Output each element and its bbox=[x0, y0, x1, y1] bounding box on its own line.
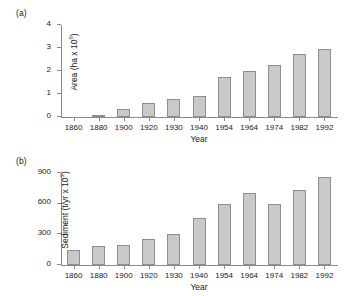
panel-b-x-tick-label-1920: 1920 bbox=[140, 271, 158, 280]
panel-b-x-tick-label-1860: 1860 bbox=[65, 271, 83, 280]
panel-b-y-tick-label: 0 bbox=[47, 259, 51, 269]
bar bbox=[243, 71, 256, 117]
panel-a-y-axis-title: Area (ha x 106) bbox=[69, 2, 79, 122]
panel-b-y-tick: 600 bbox=[57, 203, 61, 204]
panel-b-x-tick bbox=[124, 265, 125, 269]
panel-a-y-tick: 4 bbox=[57, 24, 61, 25]
panel-a-y-tick: 2 bbox=[57, 70, 61, 71]
panel-b-x-tick-label-1900: 1900 bbox=[115, 271, 133, 280]
panel-b-x-tick bbox=[199, 265, 200, 269]
bar bbox=[293, 190, 306, 265]
panel-b-x-tick bbox=[249, 265, 250, 269]
panel-a-x-tick bbox=[149, 117, 150, 121]
panel-a-x-tick bbox=[274, 117, 275, 121]
bar bbox=[218, 77, 231, 117]
panel-b-x-tick-label-1964: 1964 bbox=[240, 271, 258, 280]
panel-b-label: (b) bbox=[16, 156, 27, 166]
bar bbox=[142, 239, 155, 265]
panel-b-y-tick-label: 300 bbox=[38, 228, 51, 238]
panel-b-y-tick: 300 bbox=[57, 233, 61, 234]
bar bbox=[193, 96, 206, 117]
panel-b-x-tick-label-1880: 1880 bbox=[90, 271, 108, 280]
bar bbox=[268, 65, 281, 117]
panel-a-plot-area: Area (ha x 106) Year 0123418601880190019… bbox=[61, 25, 337, 117]
panel-a-x-tick bbox=[324, 117, 325, 121]
panel-a-y-tick: 1 bbox=[57, 93, 61, 94]
bar bbox=[142, 103, 155, 117]
panel-a-x-tick bbox=[249, 117, 250, 121]
panel-b-plot-area: Sediment (t/yr x 103) Year 0300600900186… bbox=[61, 173, 337, 265]
panel-a: (a) Area (ha x 106) Year 012341860188019… bbox=[0, 0, 347, 148]
panel-a-x-tick-label-1954: 1954 bbox=[215, 123, 233, 132]
panel-b-x-tick-label-1940: 1940 bbox=[190, 271, 208, 280]
panel-b-x-tick bbox=[299, 265, 300, 269]
panel-b-x-tick-label-1974: 1974 bbox=[265, 271, 283, 280]
bar bbox=[318, 177, 331, 265]
panel-a-x-tick bbox=[99, 117, 100, 121]
panel-a-y-tick: 3 bbox=[57, 47, 61, 48]
bar bbox=[293, 54, 306, 117]
panel-b-x-tick bbox=[224, 265, 225, 269]
panel-a-x-tick-label-1964: 1964 bbox=[240, 123, 258, 132]
panel-b: (b) Sediment (t/yr x 103) Year 030060090… bbox=[0, 148, 347, 296]
panel-a-x-tick-label-1974: 1974 bbox=[265, 123, 283, 132]
panel-a-x-tick-label-1900: 1900 bbox=[115, 123, 133, 132]
panel-b-x-tick bbox=[74, 265, 75, 269]
panel-b-x-tick-label-1992: 1992 bbox=[316, 271, 334, 280]
panel-a-x-tick-label-1992: 1992 bbox=[316, 123, 334, 132]
panel-b-x-axis-title: Year bbox=[61, 282, 337, 292]
panel-b-x-tick-label-1954: 1954 bbox=[215, 271, 233, 280]
panel-a-y-tick-label: 2 bbox=[47, 65, 51, 75]
panel-b-x-tick-label-1930: 1930 bbox=[165, 271, 183, 280]
bar bbox=[268, 204, 281, 265]
panel-b-x-tick-label-1982: 1982 bbox=[290, 271, 308, 280]
bar bbox=[117, 109, 130, 117]
panel-b-x-tick bbox=[274, 265, 275, 269]
panel-a-x-tick bbox=[224, 117, 225, 121]
panel-a-y-tick-label: 3 bbox=[47, 42, 51, 52]
panel-b-y-tick: 900 bbox=[57, 172, 61, 173]
panel-a-y-tick-label: 4 bbox=[47, 19, 51, 29]
bar bbox=[67, 250, 80, 265]
panel-a-y-tick-label: 1 bbox=[47, 88, 51, 98]
bar bbox=[318, 49, 331, 117]
panel-a-x-tick bbox=[299, 117, 300, 121]
bar bbox=[167, 99, 180, 117]
bar bbox=[92, 246, 105, 265]
panel-b-x-tick bbox=[149, 265, 150, 269]
figure-two-panel-bar-charts: (a) Area (ha x 106) Year 012341860188019… bbox=[0, 0, 347, 296]
bar bbox=[92, 115, 105, 117]
bar bbox=[193, 218, 206, 265]
panel-b-y-tick-label: 900 bbox=[38, 167, 51, 177]
panel-a-x-tick-label-1930: 1930 bbox=[165, 123, 183, 132]
bar bbox=[117, 245, 130, 265]
panel-a-x-tick-label-1860: 1860 bbox=[65, 123, 83, 132]
panel-b-y-tick-label: 600 bbox=[38, 197, 51, 207]
bar bbox=[218, 204, 231, 265]
panel-a-x-axis-title: Year bbox=[61, 134, 337, 144]
panel-a-x-tick-label-1940: 1940 bbox=[190, 123, 208, 132]
panel-a-label: (a) bbox=[16, 8, 27, 18]
panel-a-x-tick-label-1920: 1920 bbox=[140, 123, 158, 132]
panel-b-x-tick bbox=[99, 265, 100, 269]
panel-a-x-tick bbox=[74, 117, 75, 121]
panel-a-x-tick bbox=[199, 117, 200, 121]
bar bbox=[243, 193, 256, 265]
panel-a-x-tick-label-1982: 1982 bbox=[290, 123, 308, 132]
panel-b-x-tick bbox=[324, 265, 325, 269]
panel-b-x-tick bbox=[174, 265, 175, 269]
bar bbox=[167, 234, 180, 265]
panel-a-y-tick-label: 0 bbox=[47, 111, 51, 121]
panel-a-y-tick: 0 bbox=[57, 116, 61, 117]
panel-b-y-tick: 0 bbox=[57, 264, 61, 265]
panel-a-x-tick-label-1880: 1880 bbox=[90, 123, 108, 132]
panel-a-x-tick bbox=[124, 117, 125, 121]
panel-a-x-tick bbox=[174, 117, 175, 121]
